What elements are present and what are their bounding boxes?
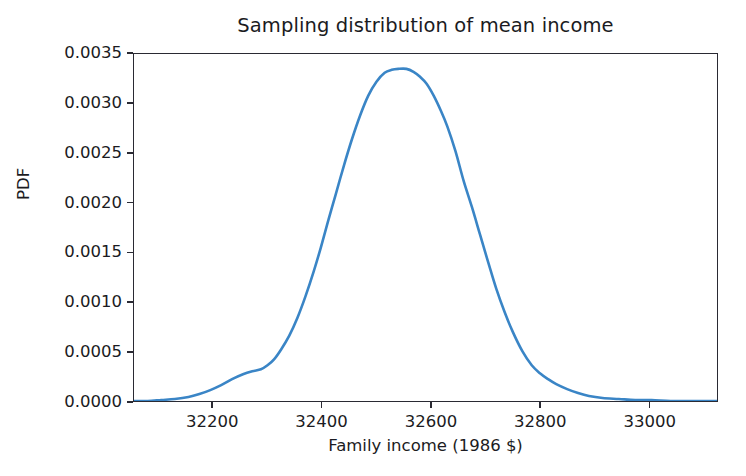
y-tick-mark (127, 351, 133, 353)
chart-figure: Sampling distribution of mean income 0.0… (0, 0, 746, 476)
y-tick-label: 0.0025 (64, 143, 122, 162)
y-tick-mark (127, 52, 133, 54)
x-tick-label: 33000 (623, 412, 676, 431)
x-tick-label: 32200 (186, 412, 239, 431)
y-tick-mark (127, 301, 133, 303)
y-tick-mark (127, 152, 133, 154)
y-tick-label: 0.0005 (64, 342, 122, 361)
y-tick-label: 0.0030 (64, 93, 122, 112)
y-tick-mark (127, 252, 133, 254)
y-tick-label: 0.0020 (64, 193, 122, 212)
x-tick-mark (321, 402, 323, 408)
x-axis-label: Family income (1986 $) (133, 436, 718, 455)
y-axis-label: PDF (14, 168, 33, 200)
x-tick-mark (649, 402, 651, 408)
y-tick-mark (127, 202, 133, 204)
pdf-line-path (134, 69, 717, 401)
x-tick-label: 32400 (295, 412, 348, 431)
y-tick-label: 0.0015 (64, 242, 122, 261)
x-tick-mark (430, 402, 432, 408)
plot-area (133, 53, 718, 402)
y-tick-label: 0.0035 (64, 43, 122, 62)
x-tick-label: 32800 (514, 412, 567, 431)
x-tick-mark (211, 402, 213, 408)
x-tick-label: 32600 (405, 412, 458, 431)
distribution-curve (134, 54, 717, 401)
y-tick-mark (127, 401, 133, 403)
y-tick-mark (127, 102, 133, 104)
y-tick-label: 0.0000 (64, 392, 122, 411)
x-tick-mark (539, 402, 541, 408)
y-tick-label: 0.0010 (64, 292, 122, 311)
page-title: Sampling distribution of mean income (133, 14, 718, 37)
